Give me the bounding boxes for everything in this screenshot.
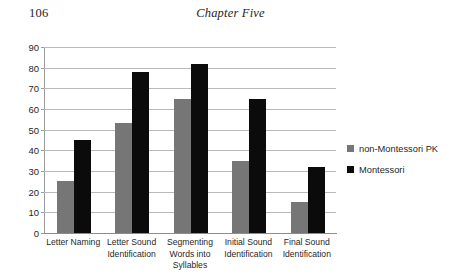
bar: [74, 140, 91, 233]
y-axis-tick-label: 50: [5, 124, 39, 135]
y-axis-tick-mark: [41, 212, 44, 213]
y-axis-tick-mark: [41, 171, 44, 172]
x-axis-category-label: Letter Sound Identification: [102, 237, 160, 260]
legend-label: Montessori: [359, 165, 404, 175]
x-axis-category-labels: Letter NamingLetter Sound Identification…: [44, 237, 336, 276]
x-axis-line: [44, 233, 337, 234]
y-axis-tick-mark: [41, 88, 44, 89]
bar: [291, 202, 308, 233]
y-axis-tick-mark: [41, 109, 44, 110]
bar: [308, 167, 325, 233]
y-axis-tick-label: 30: [5, 166, 39, 177]
x-axis-category-label: Letter Naming: [44, 237, 102, 249]
y-axis-tick-label: 60: [5, 104, 39, 115]
x-axis-category-label: Initial Sound Identification: [219, 237, 277, 260]
legend-label: non-Montessori PK: [359, 144, 438, 154]
y-axis-tick-label: 10: [5, 207, 39, 218]
legend-swatch-icon: [347, 166, 354, 173]
y-axis-tick-label: 20: [5, 186, 39, 197]
legend-item: Montessori: [347, 159, 459, 180]
y-axis: 9080706050403020100: [0, 30, 39, 276]
bar: [232, 161, 249, 233]
y-axis-tick-mark: [41, 192, 44, 193]
y-axis-tick-label: 70: [5, 83, 39, 94]
y-axis-tick-label: 0: [5, 228, 39, 239]
y-axis-tick-mark: [41, 130, 44, 131]
y-axis-tick-label: 80: [5, 62, 39, 73]
page-header: 106 Chapter Five: [0, 0, 461, 30]
bar-chart: 9080706050403020100 Letter NamingLetter …: [0, 30, 461, 276]
bar: [132, 72, 149, 233]
y-axis-tick-mark: [41, 150, 44, 151]
y-axis-tick-label: 40: [5, 145, 39, 156]
y-axis-tick-label: 90: [5, 42, 39, 53]
bar: [174, 99, 191, 233]
x-axis-category-label: Final Sound Identification: [278, 237, 336, 260]
bar: [57, 181, 74, 233]
y-axis-tick-mark: [41, 47, 44, 48]
bar: [191, 64, 208, 233]
y-axis-tick-mark: [41, 233, 44, 234]
bar: [115, 123, 132, 233]
chart-legend: non-Montessori PKMontessori: [347, 138, 459, 180]
legend-swatch-icon: [347, 145, 354, 152]
running-head: Chapter Five: [0, 6, 461, 21]
y-axis-tick-mark: [41, 68, 44, 69]
legend-item: non-Montessori PK: [347, 138, 459, 159]
x-axis-category-label: Segmenting Words into Syllables: [161, 237, 219, 272]
bar-series-group: [44, 47, 336, 233]
bar: [249, 99, 266, 233]
